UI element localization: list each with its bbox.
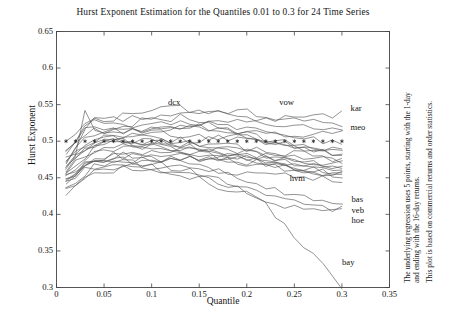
y-tick-label: 0.65 xyxy=(13,26,53,36)
plot-canvas xyxy=(0,0,449,323)
reference-marker xyxy=(302,139,305,143)
caption-line-3: This plot is based on commercial returns… xyxy=(426,101,434,283)
reference-marker xyxy=(340,139,343,143)
reference-marker xyxy=(245,139,248,143)
series-line-kar xyxy=(66,111,341,173)
series-label-hvm: hvm xyxy=(290,173,305,183)
caption-line-1: The underlying regression uses 5 points,… xyxy=(404,92,412,283)
series-label-dcx: dcx xyxy=(168,97,180,107)
series-label-bas: bas xyxy=(352,194,363,204)
series-line-s14 xyxy=(66,139,342,172)
reference-marker xyxy=(293,139,296,143)
series-label-vow: vow xyxy=(279,97,294,107)
x-axis-label: Quantile xyxy=(56,296,390,306)
reference-marker xyxy=(64,139,67,143)
reference-marker xyxy=(140,139,143,143)
y-tick-label: 0.35 xyxy=(13,245,53,255)
reference-marker xyxy=(236,139,239,143)
series-label-hoe: hoe xyxy=(352,215,364,225)
y-tick-label: 0.4 xyxy=(13,208,53,218)
figure-container: Hurst Exponent Estimation for the Quanti… xyxy=(0,0,449,323)
series-lines xyxy=(65,106,342,290)
series-label-bay: bay xyxy=(342,257,354,267)
series-label-veb: veb xyxy=(352,205,364,215)
series-label-kar: kar xyxy=(351,103,362,113)
reference-marker xyxy=(83,139,86,143)
y-axis-label: Hurst Exponent xyxy=(27,75,37,195)
y-tick-label: 0.6 xyxy=(13,62,53,72)
reference-marker xyxy=(331,139,334,143)
series-label-meo: meo xyxy=(351,122,366,132)
reference-marker xyxy=(312,139,315,143)
caption-line-2: and ending with the 16-day returns. xyxy=(413,176,421,283)
